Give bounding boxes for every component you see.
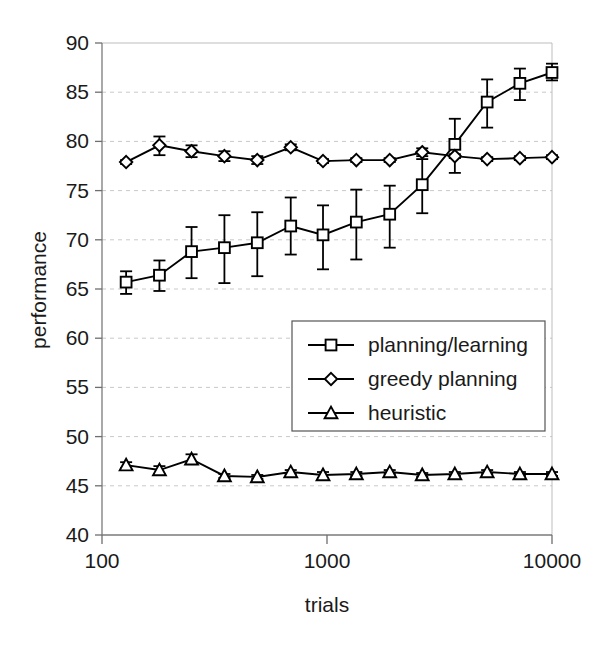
data-point-marker (384, 154, 396, 166)
series-planning-learning (120, 64, 558, 294)
data-point-marker (351, 217, 362, 228)
data-point-marker (350, 154, 362, 166)
data-point-marker (120, 459, 133, 471)
data-point-marker (514, 152, 526, 164)
legend-marker-square (326, 340, 337, 351)
chart-figure: 9085807570656055504540 100100010000 plan… (0, 0, 606, 649)
data-point-marker (482, 97, 493, 108)
x-axis-tick-labels: 100100010000 (84, 549, 581, 572)
x-tick-label-100: 100 (84, 549, 119, 572)
y-tick-label-90: 90 (66, 31, 89, 54)
legend-label: planning/learning (368, 333, 528, 356)
legend: planning/learninggreedy planningheuristi… (292, 321, 545, 431)
series-heuristic (120, 453, 559, 482)
data-point-marker (121, 277, 132, 288)
y-tick-label-40: 40 (66, 523, 89, 546)
data-point-marker (120, 156, 132, 168)
data-point-marker (481, 153, 493, 165)
data-point-marker (153, 139, 165, 151)
y-axis-title: performance (27, 231, 50, 349)
x-axis-title: trials (305, 593, 349, 616)
y-tick-label-50: 50 (66, 425, 89, 448)
data-point-marker (449, 139, 460, 150)
data-point-marker (318, 229, 329, 240)
y-tick-label-60: 60 (66, 326, 89, 349)
data-point-marker (185, 145, 197, 157)
performance-vs-trials-chart: 9085807570656055504540 100100010000 plan… (0, 0, 606, 649)
data-point-marker (285, 141, 297, 153)
y-tick-label-80: 80 (66, 129, 89, 152)
y-tick-label-55: 55 (66, 375, 89, 398)
y-tick-label-70: 70 (66, 228, 89, 251)
data-point-marker (417, 179, 428, 190)
x-tick-label-10000: 10000 (523, 549, 581, 572)
data-point-marker (547, 67, 558, 78)
y-axis-tick-labels: 9085807570656055504540 (66, 31, 89, 546)
data-point-marker (284, 466, 297, 478)
data-point-marker (546, 151, 558, 163)
data-point-marker (252, 237, 263, 248)
data-point-marker (154, 270, 165, 281)
data-point-marker (514, 78, 525, 89)
legend-label: heuristic (368, 401, 446, 424)
legend-label: greedy planning (368, 367, 517, 390)
data-point-marker (219, 242, 230, 253)
y-tick-label-65: 65 (66, 277, 89, 300)
y-tick-label-85: 85 (66, 80, 89, 103)
y-tick-label-45: 45 (66, 474, 89, 497)
data-point-marker (449, 150, 461, 162)
y-tick-label-75: 75 (66, 179, 89, 202)
data-point-marker (317, 155, 329, 167)
x-tick-label-1000: 1000 (304, 549, 351, 572)
data-point-marker (285, 221, 296, 232)
data-point-marker (384, 209, 395, 220)
data-point-marker (186, 246, 197, 257)
